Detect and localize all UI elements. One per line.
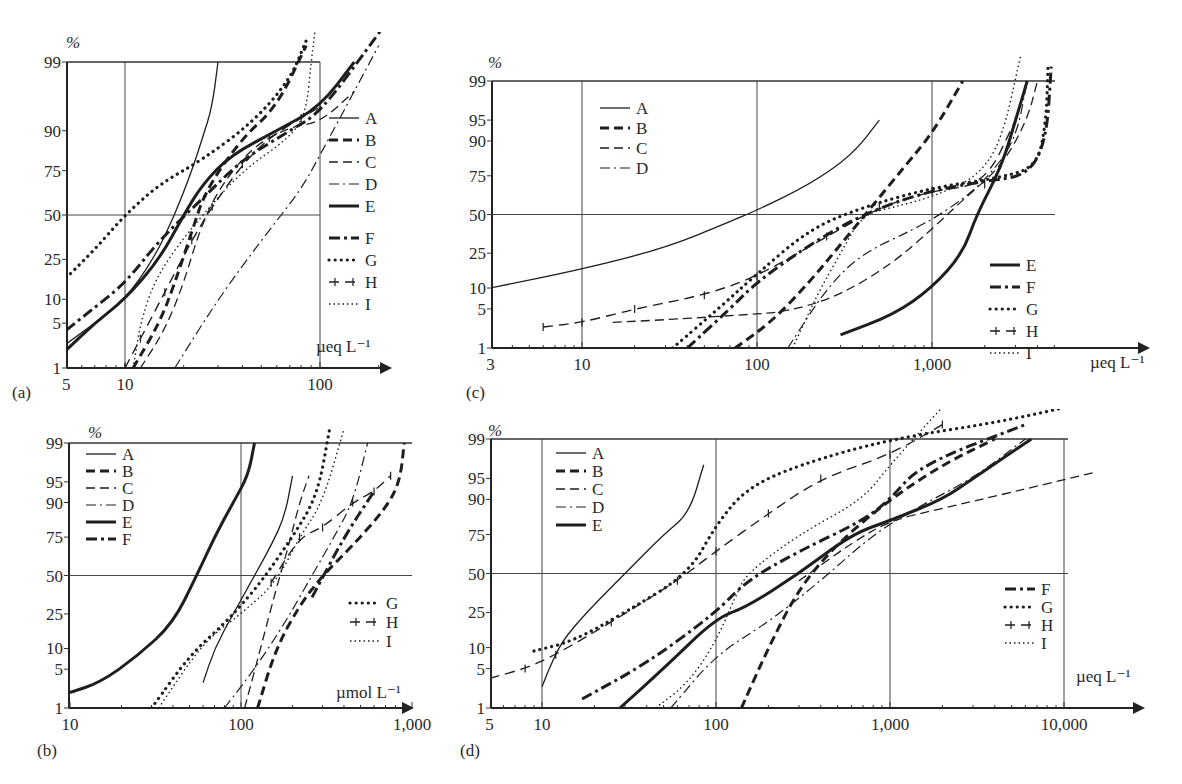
x-axis-label: µeq L⁻¹ (316, 337, 371, 356)
y-tick-label: 10 (46, 639, 63, 658)
series-line-C (613, 81, 1038, 322)
legend-label-A: A (636, 99, 649, 118)
series-group (490, 395, 1117, 708)
y-tick-label: 75 (44, 162, 61, 181)
x-tick-label: 5 (62, 375, 71, 394)
x-tick-label: 10 (62, 715, 79, 734)
x-tick-label: 10 (117, 375, 134, 394)
legend-label-F: F (122, 530, 131, 549)
y-tick-label: 1 (53, 359, 62, 378)
series-line-G (534, 395, 1116, 651)
x-axis-arrow-icon (1133, 702, 1145, 714)
panel-label: (a) (12, 383, 31, 402)
y-tick-label: 5 (55, 660, 64, 679)
series-group (66, 12, 394, 372)
x-tick-label: 1,000 (393, 715, 431, 734)
legend-label-I: I (386, 632, 392, 651)
legend-label-I: I (1041, 634, 1047, 653)
panel-c-chart: 3101001,0001510255075909599%µeq L⁻¹(c)AB… (466, 53, 1150, 402)
x-tick-label: 5 (485, 715, 494, 734)
series-line-B (133, 46, 306, 368)
y-tick-label: 90 (44, 122, 61, 141)
y-tick-label: 90 (469, 132, 486, 151)
legend-label-C: C (365, 153, 376, 172)
series-line-A (491, 120, 880, 288)
legend-label-B: B (636, 119, 647, 138)
y-tick-label: 10 (468, 639, 485, 658)
y-tick-label: 95 (46, 473, 63, 492)
x-tick-label: 3 (486, 355, 495, 374)
y-tick-label: 25 (46, 605, 63, 624)
legend-label-D: D (636, 159, 648, 178)
x-tick-label: 10 (534, 715, 551, 734)
legend-label-F: F (365, 229, 374, 248)
x-tick-label: 100 (744, 355, 770, 374)
legend: ABCDEFGHI (600, 99, 1038, 363)
figure-canvas: 51010015102550759099%µeq L⁻¹(a)ABCDEFGHI… (0, 0, 1182, 784)
y-tick-label: 25 (469, 244, 486, 263)
y-tick-label: 99 (468, 430, 485, 449)
panel-label: (c) (466, 383, 485, 402)
y-tick-label: 90 (468, 490, 485, 509)
y-tick-label: 75 (468, 526, 485, 545)
panel-label: (b) (37, 741, 57, 760)
panel-d-chart: 5101001,00010,0001510255075909599%µeq L⁻… (460, 395, 1145, 760)
series-group (491, 57, 1052, 348)
y-tick-label: 25 (44, 250, 61, 269)
y-tick-label: 75 (469, 167, 486, 186)
legend-label-I: I (1026, 344, 1032, 363)
x-tick-label: 10 (574, 355, 591, 374)
x-tick-label: 100 (703, 715, 729, 734)
legend-label-H: H (1041, 616, 1053, 635)
x-axis-arrow-icon (380, 362, 392, 374)
series-line-A (66, 62, 218, 344)
y-tick-label: 10 (469, 279, 486, 298)
legend: ABCDEFGHI (329, 109, 378, 314)
series-line-C (245, 476, 309, 708)
legend-label-I: I (365, 295, 371, 314)
y-tick-label: 1 (478, 339, 487, 358)
legend-label-G: G (1026, 300, 1038, 319)
legend-label-G: G (1041, 598, 1053, 617)
legend-label-D: D (592, 498, 604, 517)
y-tick-label: 5 (53, 314, 62, 333)
legend-label-E: E (365, 197, 375, 216)
y-tick-label: 25 (468, 603, 485, 622)
panel-label: (d) (460, 741, 480, 760)
y-tick-label: 95 (469, 111, 486, 130)
series-line-G (66, 41, 306, 278)
y-tick-label: 50 (44, 206, 61, 225)
y-tick-label: 99 (469, 72, 486, 91)
x-tick-label: 1,000 (913, 355, 951, 374)
legend-label-H: H (386, 613, 398, 632)
panel-b-chart: 101001,0001510255075909599%µmol L⁻¹(b)AB… (37, 423, 431, 760)
series-line-G (673, 67, 1048, 348)
series-line-H (543, 120, 1015, 327)
series-line-E (70, 443, 255, 693)
y-tick-label: 50 (468, 565, 485, 584)
legend-label-D: D (365, 175, 377, 194)
y-tick-label: 75 (46, 528, 63, 547)
y-tick-label: 95 (468, 469, 485, 488)
panel-a-chart: 51010015102550759099%µeq L⁻¹(a)ABCDEFGHI (12, 12, 394, 402)
x-tick-label: 100 (307, 375, 333, 394)
x-tick-label: 100 (228, 715, 254, 734)
y-tick-label: 50 (469, 206, 486, 225)
series-line-F (312, 491, 374, 597)
series-line-C (140, 91, 354, 368)
x-tick-label: 10,000 (1041, 715, 1088, 734)
y-axis-label: % (488, 421, 502, 440)
legend-label-F: F (1026, 278, 1035, 297)
x-axis-label: µeq L⁻¹ (1090, 353, 1145, 372)
legend-label-A: A (592, 444, 605, 463)
series-line-E (841, 81, 1028, 335)
y-tick-label: 90 (46, 494, 63, 513)
series-group (70, 429, 404, 708)
y-tick-label: 1 (55, 699, 64, 718)
legend-label-G: G (365, 251, 377, 270)
legend-label-A: A (365, 109, 378, 128)
legend-label-F: F (1041, 580, 1050, 599)
y-axis-label: % (66, 33, 80, 52)
x-axis-label: µmol L⁻¹ (336, 683, 401, 702)
y-axis-label: % (88, 423, 102, 442)
